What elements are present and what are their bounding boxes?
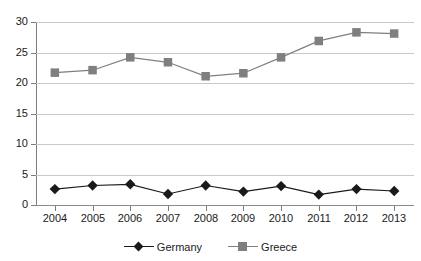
y-tick-label: 10 (2, 138, 28, 149)
legend-marker-square (238, 242, 247, 251)
gridline (36, 53, 414, 54)
legend-marker-diamond (133, 242, 143, 252)
x-tick-mark (394, 206, 395, 211)
x-tick-label: 2004 (35, 212, 75, 224)
x-tick-label: 2005 (73, 212, 113, 224)
x-tick-mark (168, 206, 169, 211)
y-tick-mark (31, 175, 36, 176)
x-tick-label: 2011 (299, 212, 339, 224)
chart-legend: Germany Greece (0, 236, 421, 258)
legend-label-germany: Germany (157, 241, 202, 253)
x-tick-label: 2008 (186, 212, 226, 224)
x-tick-mark (130, 206, 131, 211)
gridline (36, 83, 414, 84)
x-tick-mark (281, 206, 282, 211)
gridline (36, 144, 414, 145)
x-tick-mark (93, 206, 94, 211)
legend-entry-germany: Germany (124, 241, 202, 253)
legend-label-greece: Greece (261, 241, 297, 253)
y-tick-label: 30 (2, 16, 28, 27)
legend-swatch-greece (228, 241, 258, 253)
y-tick-label: 25 (2, 47, 28, 58)
gridline (36, 175, 414, 176)
gridline (36, 22, 414, 23)
legend-swatch-germany (124, 241, 154, 253)
x-tick-label: 2012 (336, 212, 376, 224)
gridline (36, 114, 414, 115)
x-tick-label: 2006 (110, 212, 150, 224)
y-tick-mark (31, 22, 36, 23)
line-chart: 051015202530 200420052006200720082009201… (0, 0, 421, 261)
y-tick-label: 20 (2, 77, 28, 88)
y-tick-mark (31, 144, 36, 145)
x-tick-label: 2009 (223, 212, 263, 224)
y-tick-label: 5 (2, 169, 28, 180)
x-tick-label: 2013 (374, 212, 414, 224)
y-tick-mark (31, 114, 36, 115)
y-tick-mark (31, 205, 36, 206)
legend-entry-greece: Greece (228, 241, 297, 253)
x-tick-mark (356, 206, 357, 211)
y-tick-label: 0 (2, 199, 28, 210)
x-tick-mark (55, 206, 56, 211)
y-tick-mark (31, 83, 36, 84)
x-tick-mark (319, 206, 320, 211)
y-tick-mark (31, 53, 36, 54)
x-tick-mark (243, 206, 244, 211)
x-tick-mark (206, 206, 207, 211)
x-tick-label: 2010 (261, 212, 301, 224)
x-tick-label: 2007 (148, 212, 188, 224)
y-tick-label: 15 (2, 108, 28, 119)
